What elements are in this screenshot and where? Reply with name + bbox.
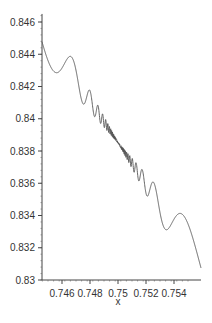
data-series-line	[42, 42, 201, 268]
line-chart: 0.830.8320.8340.8360.8380.840.8420.8440.…	[0, 0, 212, 323]
x-axis-title: x	[116, 296, 121, 307]
plot-area	[42, 42, 201, 268]
x-tick-label: 0.746	[49, 288, 74, 299]
y-tick-label: 0.842	[10, 81, 35, 92]
y-tick-label: 0.838	[10, 146, 35, 157]
y-tick-label: 0.83	[16, 275, 36, 286]
y-tick-label: 0.846	[10, 17, 35, 28]
x-axis: 0.7460.7480.750.7520.754	[42, 280, 201, 299]
y-tick-label: 0.834	[10, 210, 35, 221]
y-tick-label: 0.832	[10, 242, 35, 253]
y-axis: 0.830.8320.8340.8360.8380.840.8420.8440.…	[10, 14, 42, 286]
x-tick-label: 0.748	[77, 288, 102, 299]
y-tick-label: 0.844	[10, 49, 35, 60]
x-tick-label: 0.752	[133, 288, 158, 299]
x-tick-label: 0.754	[161, 288, 186, 299]
y-tick-label: 0.836	[10, 178, 35, 189]
y-tick-label: 0.84	[16, 113, 36, 124]
